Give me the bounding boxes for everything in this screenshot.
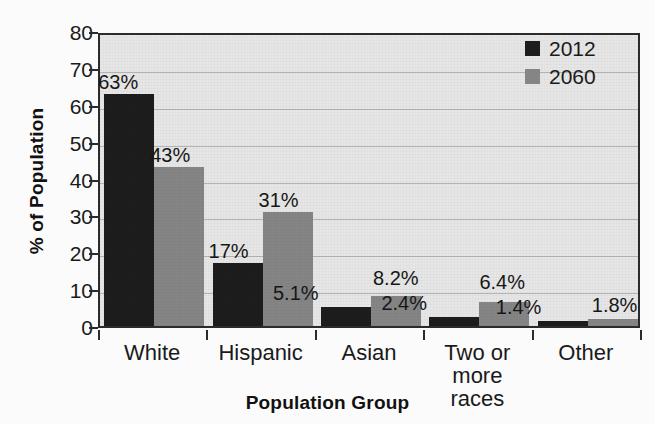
x-axis-category-line: Other xyxy=(558,340,613,365)
x-axis-tick-mark xyxy=(423,330,425,340)
legend-swatch-2060-icon xyxy=(525,69,540,84)
y-axis-tick-label: 70 xyxy=(47,59,93,80)
bar-other-2012 xyxy=(538,321,588,326)
bar-white-2060 xyxy=(154,167,204,326)
value-label-other-2012: 1.4% xyxy=(496,297,542,317)
value-label-other-2060: 1.8% xyxy=(592,295,638,315)
y-axis-tick-label: 80 xyxy=(47,22,93,43)
y-axis-tick-mark xyxy=(89,327,98,329)
x-axis-category-line: Two or xyxy=(444,340,510,365)
y-axis-tick-label: 30 xyxy=(47,206,93,227)
x-axis-tick-mark xyxy=(98,330,100,340)
bar-other-2060 xyxy=(588,319,638,326)
x-axis-category-white: White xyxy=(98,341,206,364)
truncated-title-sliver xyxy=(150,0,220,3)
legend: 2012 2060 xyxy=(525,38,596,94)
x-axis-category-line: Hispanic xyxy=(218,340,302,365)
y-axis-tick-mark xyxy=(89,253,98,255)
x-axis-title: Population Group xyxy=(0,392,655,414)
y-axis-tick-mark xyxy=(89,69,98,71)
x-axis-tick-mark xyxy=(315,330,317,340)
legend-label-2012: 2012 xyxy=(549,38,596,59)
y-axis-tick-mark xyxy=(89,216,98,218)
legend-swatch-2012-icon xyxy=(525,41,540,56)
x-axis-tick-mark xyxy=(640,330,642,340)
value-label-hispanic-2060: 31% xyxy=(259,190,299,210)
x-axis-category-line: Asian xyxy=(341,340,396,365)
bar-hispanic-2060 xyxy=(263,212,313,326)
value-label-white-2012: 63% xyxy=(98,72,138,92)
y-axis-tick-label: 40 xyxy=(47,170,93,191)
y-axis-tick-label: 20 xyxy=(47,243,93,264)
x-axis-category-line: White xyxy=(124,340,180,365)
y-axis-tick-label: 50 xyxy=(47,133,93,154)
y-axis-tick-mark xyxy=(89,180,98,182)
x-axis-category-asian: Asian xyxy=(315,341,423,364)
value-label-asian-2012: 5.1% xyxy=(273,283,319,303)
value-label-asian-2060: 8.2% xyxy=(373,268,419,288)
y-axis-tick-label: 0 xyxy=(47,317,93,338)
bar-two-or-more-races-2012 xyxy=(429,317,479,326)
y-axis-tick-mark xyxy=(89,106,98,108)
value-label-white-2060: 43% xyxy=(150,145,190,165)
x-axis-tick-mark xyxy=(532,330,534,340)
value-label-hispanic-2012: 17% xyxy=(209,241,249,261)
value-label-two-or-more-races-2060: 6.4% xyxy=(479,272,525,292)
legend-entry-2060: 2060 xyxy=(525,66,596,87)
x-axis-category-other: Other xyxy=(532,341,640,364)
legend-entry-2012: 2012 xyxy=(525,38,596,59)
y-axis-tick-mark xyxy=(89,143,98,145)
y-axis-tick-label: 60 xyxy=(47,96,93,117)
legend-label-2060: 2060 xyxy=(549,66,596,87)
y-axis-title: % of Population xyxy=(26,56,48,306)
y-axis-tick-label: 10 xyxy=(47,280,93,301)
bar-asian-2012 xyxy=(321,307,371,326)
y-axis-tick-mark xyxy=(89,290,98,292)
x-axis-category-hispanic: Hispanic xyxy=(206,341,314,364)
bar-chart-figure: % of Population 80706050403020100 63%43%… xyxy=(0,0,655,424)
y-axis-tick-mark xyxy=(89,32,98,34)
gridline xyxy=(100,109,638,110)
bar-hispanic-2012 xyxy=(213,263,263,326)
x-axis-tick-mark xyxy=(206,330,208,340)
bar-white-2012 xyxy=(104,94,154,326)
value-label-two-or-more-races-2012: 2.4% xyxy=(381,293,427,313)
